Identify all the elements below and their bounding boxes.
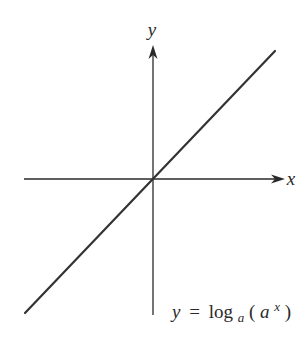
eq-arg-base: a — [260, 301, 270, 322]
equation-label: y = log a ( a x ) — [170, 294, 291, 326]
eq-open: ( — [249, 301, 255, 323]
x-axis-label: x — [286, 168, 296, 189]
eq-arg-exp: x — [273, 299, 280, 314]
curve-line — [25, 51, 275, 313]
eq-base: a — [238, 310, 245, 325]
eq-close: ) — [285, 301, 291, 323]
y-axis-label: y — [146, 19, 157, 40]
function-graph: y x y = log a ( a x ) — [0, 0, 305, 345]
eq-func: log — [209, 301, 234, 322]
eq-equals: = — [189, 301, 200, 322]
eq-lhs: y — [170, 301, 181, 322]
